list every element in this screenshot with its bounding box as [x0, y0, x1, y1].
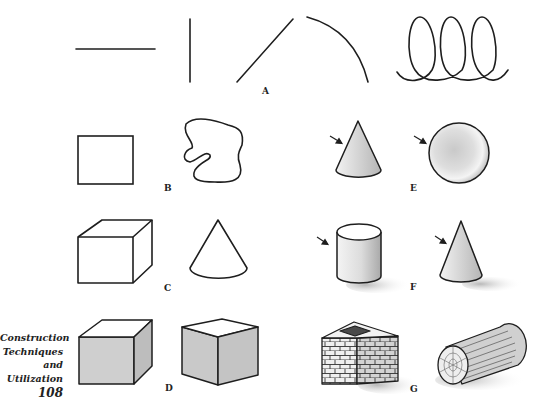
row-c-outline-solids — [78, 220, 247, 283]
label-b: B — [164, 183, 172, 193]
label-e: E — [410, 183, 417, 193]
label-g: G — [410, 384, 418, 394]
label-c: C — [164, 283, 171, 293]
cylinder-with-shadow — [337, 224, 381, 283]
arrow-light-cylinder — [317, 237, 328, 245]
cone-outline — [190, 220, 247, 278]
square-outline — [78, 136, 133, 184]
row-f-shadowed-solids — [317, 221, 522, 293]
row-d-shaded-cubes — [79, 319, 258, 385]
caption-line-4: Utilization — [0, 372, 63, 386]
shaded-cube-corner — [182, 319, 258, 385]
shaded-cube-front — [79, 320, 152, 384]
cone-with-shadow — [440, 221, 482, 282]
row-e-lit-solids — [330, 121, 489, 183]
page-caption: Construction Techniques and Utilization … — [0, 331, 63, 401]
page-number: 108 — [0, 385, 63, 401]
arrow-light-cone-f — [435, 236, 446, 244]
row-b-flat-shapes — [78, 119, 242, 184]
cube-outline — [78, 220, 152, 283]
arc-curve — [307, 17, 368, 82]
label-f: F — [410, 282, 417, 292]
coil-loops-curve — [397, 17, 508, 80]
shaded-sphere — [429, 123, 489, 183]
brick-chimney-block — [322, 322, 398, 384]
caption-line-1: Construction — [0, 331, 63, 345]
row-g-textured-objects — [322, 322, 526, 394]
caption-line-3: and — [0, 358, 63, 372]
arrow-light-cone — [330, 136, 342, 144]
shaded-cone — [336, 121, 381, 177]
label-a: A — [261, 86, 270, 96]
row-a-basic-lines — [76, 17, 508, 82]
freeform-blob-outline — [184, 119, 242, 182]
illustration-canvas: A B C D — [0, 0, 538, 417]
label-d: D — [165, 383, 173, 393]
caption-line-2: Techniques — [0, 345, 63, 359]
diagonal-line — [237, 19, 293, 82]
arrow-light-sphere — [414, 136, 426, 144]
